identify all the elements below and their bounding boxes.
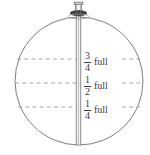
fraction-denominator: 4 (84, 63, 91, 74)
fraction-one-quarter: 1 4 (84, 99, 91, 121)
fill-label-three-quarters: 3 4 full (84, 51, 108, 73)
fill-label-unit: full (94, 105, 108, 115)
fill-level-figure: 3 4 full 1 2 full 1 4 full (0, 0, 150, 155)
fraction-numerator: 1 (84, 99, 91, 110)
fill-label-unit: full (94, 81, 108, 91)
valve-top-knob (74, 2, 83, 4)
fraction-numerator: 3 (84, 51, 91, 62)
fill-label-unit: full (94, 57, 108, 67)
fraction-one-half: 1 2 (84, 75, 91, 97)
fraction-numerator: 1 (84, 75, 91, 86)
fill-label-one-quarter: 1 4 full (84, 99, 108, 121)
tank-diagram-svg (0, 0, 150, 155)
fraction-three-quarters: 3 4 (84, 51, 91, 73)
fraction-denominator: 2 (84, 87, 91, 98)
fraction-denominator: 4 (84, 111, 91, 122)
valve-flange-collar (70, 11, 86, 16)
fill-label-one-half: 1 2 full (84, 75, 108, 97)
